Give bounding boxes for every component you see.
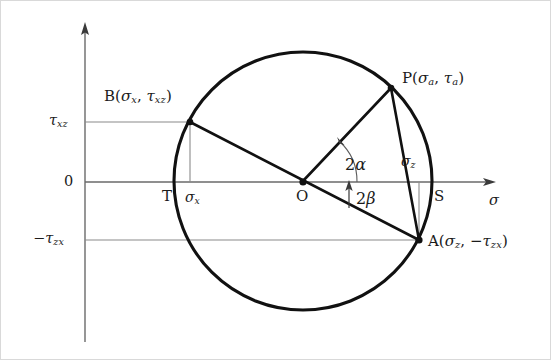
tau-xz-symbol: τ (49, 112, 57, 128)
point-label-B-tau-sub: xz (155, 94, 166, 105)
sigma-axis (85, 178, 496, 186)
tau-xz-subscript: xz (57, 118, 68, 129)
two-alpha-symbol: α (355, 155, 366, 174)
marker-label-sigma-z: σz (401, 154, 416, 169)
point-label-A: A(σz, −τzx) (428, 234, 508, 250)
point-label-P-close: ) (458, 69, 464, 87)
point-dot-B (187, 119, 194, 126)
sigma-z-symbol: σ (401, 153, 411, 169)
point-label-B-close: ) (166, 87, 172, 105)
point-label-A-tau: τ (482, 232, 490, 250)
point-label-A-sep: , − (460, 232, 482, 250)
angle-label-two-beta: 2β (356, 191, 375, 207)
marker-label-T: T (162, 189, 172, 204)
neg-tau-zx-symbol: τ (45, 230, 53, 246)
point-label-P-tau: τ (444, 69, 452, 87)
point-label-P: P(σa, τa) (402, 71, 464, 87)
point-dot-O (299, 178, 306, 185)
mohr-circle-figure: τxz 0 −τzx σ B(σx, τxz) P(σa, τa) A(σz, … (0, 0, 551, 360)
mohr-circle-canvas (1, 1, 551, 360)
point-label-P-sigma: σ (418, 69, 428, 87)
point-dot-P (388, 85, 395, 92)
two-beta-number: 2 (356, 189, 366, 208)
neg-tau-zx-minus: − (33, 230, 45, 246)
angle-label-two-alpha: 2α (345, 157, 366, 173)
point-dot-A (415, 236, 422, 243)
point-label-P-head: P( (402, 69, 418, 87)
sigma-x-symbol: σ (185, 189, 195, 205)
marker-label-sigma-x: σx (185, 190, 200, 205)
tick-label-zero: 0 (64, 174, 73, 189)
sigma-z-subscript: z (411, 159, 416, 170)
marker-label-S: S (434, 189, 444, 204)
two-beta-symbol: β (366, 189, 375, 208)
sigma-x-subscript: x (195, 195, 200, 206)
point-label-B-tau: τ (146, 87, 154, 105)
point-label-A-head: A( (428, 232, 445, 250)
point-label-B: B(σx, τxz) (104, 89, 172, 105)
point-label-B-head: B( (104, 87, 121, 105)
marker-label-O: O (296, 189, 308, 204)
tick-label-neg-tau-zx: −τzx (33, 231, 64, 247)
point-label-P-sep: , (434, 69, 444, 87)
axis-label-sigma: σ (489, 193, 499, 208)
point-label-A-sigma: σ (445, 232, 455, 250)
point-label-B-sigma: σ (121, 87, 131, 105)
point-label-A-tau-sub: zx (491, 239, 502, 250)
point-label-A-close: ) (502, 232, 508, 250)
neg-tau-zx-subscript: zx (53, 236, 64, 247)
two-alpha-number: 2 (345, 155, 355, 174)
tick-label-tau-xz: τxz (49, 113, 68, 129)
